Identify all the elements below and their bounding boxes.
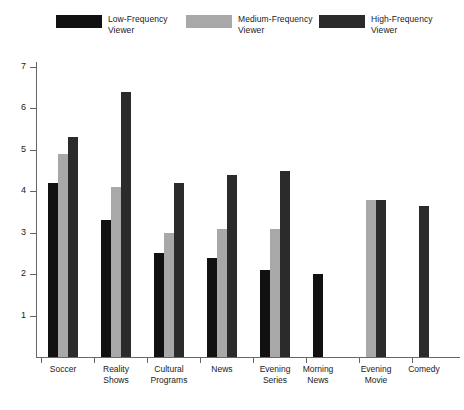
y-axis-tick-label: 7 — [21, 61, 26, 71]
bar — [227, 175, 237, 357]
plot-area: 7654321 SoccerReality ShowsCultural Prog… — [36, 62, 460, 358]
legend-color-swatch — [186, 15, 232, 28]
y-axis-tick: 2 — [30, 274, 36, 275]
bar — [280, 171, 290, 357]
legend-item-label: Medium-Frequency Viewer — [238, 14, 313, 35]
legend-item[interactable]: Medium-Frequency Viewer — [186, 14, 313, 35]
y-axis-tick: 5 — [30, 150, 36, 151]
category-label: Morning News — [285, 364, 351, 385]
legend-item-label: High-Frequency Viewer — [371, 14, 433, 35]
legend-color-swatch — [56, 15, 102, 28]
bar — [68, 137, 78, 357]
bar — [101, 220, 111, 357]
bar — [121, 92, 131, 357]
bar — [58, 154, 68, 357]
x-axis-tick — [253, 358, 254, 363]
y-axis-tick-label: 6 — [21, 102, 26, 112]
legend-item-label: Low-Frequency Viewer — [108, 14, 168, 35]
y-axis-line — [36, 62, 37, 358]
x-axis-line — [36, 357, 460, 358]
category-label: Comedy — [391, 364, 457, 375]
legend-color-swatch — [319, 15, 365, 28]
x-axis-tick — [200, 358, 201, 363]
bar — [164, 233, 174, 357]
y-axis-tick: 6 — [30, 108, 36, 109]
bar — [270, 229, 280, 357]
bar — [154, 253, 164, 357]
y-axis-tick-label: 1 — [21, 310, 26, 320]
bar — [207, 258, 217, 357]
bar — [48, 183, 58, 357]
y-axis-tick: 7 — [30, 67, 36, 68]
bar — [366, 200, 376, 357]
x-axis-tick — [412, 358, 413, 363]
bar-chart: Low-Frequency ViewerMedium-Frequency Vie… — [0, 0, 464, 410]
y-axis-tick-label: 2 — [21, 268, 26, 278]
bar — [376, 200, 386, 357]
y-axis-tick-label: 3 — [21, 227, 26, 237]
chart-legend: Low-Frequency ViewerMedium-Frequency Vie… — [0, 0, 464, 46]
y-axis-tick-label: 5 — [21, 144, 26, 154]
x-axis-tick — [306, 358, 307, 363]
bar — [419, 206, 429, 357]
y-axis-tick: 3 — [30, 233, 36, 234]
y-axis-tick: 1 — [30, 316, 36, 317]
bar — [217, 229, 227, 357]
y-axis-tick: 4 — [30, 191, 36, 192]
x-axis-tick — [359, 358, 360, 363]
bar — [111, 187, 121, 357]
bar — [313, 274, 323, 357]
legend-item[interactable]: Low-Frequency Viewer — [56, 14, 168, 35]
legend-item[interactable]: High-Frequency Viewer — [319, 14, 433, 35]
bar — [260, 270, 270, 357]
x-axis-tick — [147, 358, 148, 363]
x-axis-tick — [41, 358, 42, 363]
bar — [174, 183, 184, 357]
y-axis-tick-label: 4 — [21, 185, 26, 195]
x-axis-tick — [94, 358, 95, 363]
